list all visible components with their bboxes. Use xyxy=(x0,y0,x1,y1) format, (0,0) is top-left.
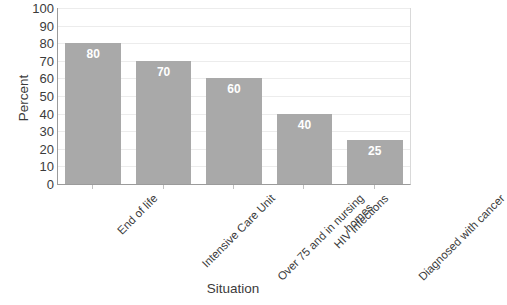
y-tick-label: 70 xyxy=(16,54,54,67)
bar-value-label: 25 xyxy=(347,145,403,157)
x-tick-mark xyxy=(303,185,304,189)
y-tick-label: 0 xyxy=(16,178,54,191)
bar-value-label: 70 xyxy=(136,66,192,78)
bar[interactable]: 40 xyxy=(277,114,333,184)
y-tick-label: 50 xyxy=(16,90,54,103)
y-tick-label: 20 xyxy=(16,142,54,155)
x-tick-mark xyxy=(92,185,93,189)
x-tick-label: Intensive Care Unit xyxy=(199,192,277,270)
bar[interactable]: 25 xyxy=(347,140,403,184)
bar-value-label: 80 xyxy=(65,48,121,60)
bar-value-label: 60 xyxy=(206,83,262,95)
y-tick-label: 100 xyxy=(16,2,54,15)
x-tick-label: End of life xyxy=(115,192,160,237)
bar[interactable]: 70 xyxy=(136,61,192,184)
x-axis-title: Situation xyxy=(57,281,409,297)
bar-value-label: 40 xyxy=(277,119,333,131)
y-tick-label: 80 xyxy=(16,37,54,50)
bars-layer: 8070604025 xyxy=(58,8,410,184)
plot-area: 8070604025 xyxy=(57,8,411,185)
y-tick-label: 40 xyxy=(16,107,54,120)
y-axis-tick-labels: 1009080706050403020100 xyxy=(16,8,54,184)
x-tick-label: Diagnosed with cancer xyxy=(416,192,507,283)
y-tick-label: 30 xyxy=(16,125,54,138)
y-tick-label: 60 xyxy=(16,72,54,85)
y-tick-label: 10 xyxy=(16,160,54,173)
x-tick-mark xyxy=(163,185,164,189)
bar[interactable]: 80 xyxy=(65,43,121,184)
y-tick-label: 90 xyxy=(16,19,54,32)
x-tick-mark xyxy=(233,185,234,189)
x-tick-mark xyxy=(374,185,375,189)
x-tick-label: Over 75 and in nursing homes xyxy=(275,192,376,293)
bar[interactable]: 60 xyxy=(206,78,262,184)
